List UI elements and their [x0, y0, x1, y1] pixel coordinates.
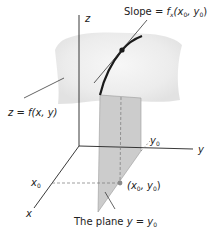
tangent-point [119, 47, 124, 52]
base-point [118, 181, 123, 186]
surface [55, 33, 182, 104]
x-axis [34, 146, 79, 208]
plane-label: The plane y = y0 [73, 216, 157, 228]
dashed-y0-guide [141, 141, 150, 151]
x0-label: x0 [30, 177, 41, 189]
y0-label: y0 [149, 135, 160, 147]
x-axis-label: x [25, 208, 32, 219]
plane-y-equals-y0 [98, 95, 141, 212]
point-label: (x0, y0) [127, 180, 161, 192]
surface-leader-line [24, 78, 64, 98]
partial-derivative-diagram: Slope = fx(x0, y0) z y x z = f(x, y) x0 … [0, 0, 215, 234]
z-axis-label: z [84, 13, 91, 24]
y-axis-label: y [197, 144, 205, 155]
slope-label: Slope = fx(x0, y0) [124, 6, 207, 18]
surface-label: z = f(x, y) [7, 107, 58, 118]
